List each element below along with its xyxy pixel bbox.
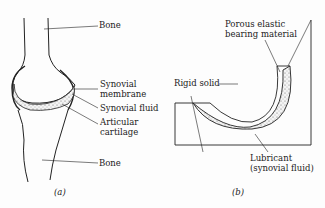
label-synovial-membrane-line2: membrane [100,90,146,100]
label-articular-cartilage-line2: cartilage [100,128,138,138]
caption-b: (b) [232,188,244,198]
synovial-fluid [13,84,74,110]
label-rigid-solid: Rigid solid [174,79,220,89]
caption-a: (a) [54,188,66,198]
knee-joint [12,18,98,182]
label-bone-bottom: Bone [99,159,121,169]
label-bone-top: Bone [99,21,121,31]
lower-bone [18,110,68,182]
label-porous-line2: bearing material [225,30,297,40]
porous-bearing [193,66,291,129]
diagram: Bone Synovial membrane Synovial fluid Ar… [0,0,325,208]
upper-bone [13,18,75,103]
label-synovial-fluid: Synovial fluid [100,104,159,114]
label-lubricant-line2: (synovial fluid) [250,164,314,174]
